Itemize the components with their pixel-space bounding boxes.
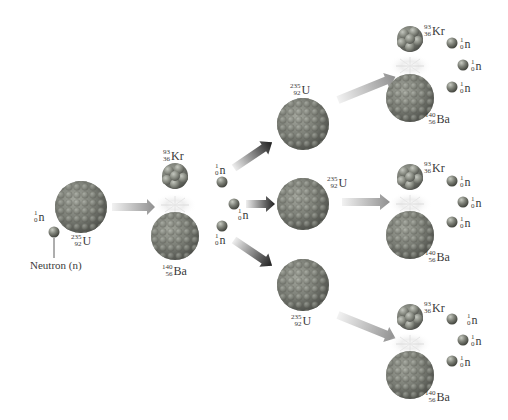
middle-ba-label: 14056Ba [425, 250, 450, 264]
first-kr-label: 9336Kr [163, 149, 184, 163]
upper-neutron-2-label: 10n [471, 59, 482, 73]
atomic-number: 92 [294, 90, 301, 97]
upper-neutron-1 [447, 38, 458, 49]
lower-neutron-1-label: 10n [467, 313, 478, 327]
atomic-number: 92 [295, 321, 302, 328]
arrow-to-middle-uranium [246, 196, 275, 212]
middle-neutron-3-label: 10n [460, 216, 471, 230]
arrow-to-lower-uranium [230, 233, 277, 272]
lower-neutron-1 [447, 314, 458, 325]
lower-ba-label: 14056Ba [425, 390, 450, 404]
element-symbol: n [465, 355, 471, 369]
initial-uranium-label: 23592U [71, 234, 91, 248]
second-uranium-lower-label: 23592U [291, 314, 311, 328]
atomic-number: 0 [467, 320, 471, 327]
arrow-middle-fission [342, 194, 390, 210]
middle-neutron-1-label: 10n [460, 175, 471, 189]
middle-neutron-3 [447, 217, 458, 228]
atomic-number: 56 [166, 271, 173, 278]
middle-neutron-1 [447, 176, 458, 187]
element-symbol: Kr [432, 161, 445, 175]
upper-neutron-3 [447, 82, 458, 93]
initial-neutron [49, 227, 60, 238]
upper-neutron-3-label: 10n [460, 81, 471, 95]
arrow-lower-fission [335, 308, 398, 346]
lower-kr-nucleus [397, 304, 423, 330]
element-symbol: Kr [171, 149, 184, 163]
element-symbol: Ba [174, 264, 187, 278]
atomic-number: 0 [460, 182, 464, 189]
element-symbol: n [476, 334, 482, 348]
atomic-number: 36 [424, 168, 431, 175]
initial-uranium-nucleus [55, 181, 107, 233]
lower-neutron-2-label: 10n [471, 334, 482, 348]
element-symbol: U [339, 176, 348, 190]
atomic-number: 36 [163, 156, 170, 163]
element-symbol: n [472, 313, 478, 327]
atomic-number: 56 [429, 119, 436, 126]
element-symbol: n [243, 208, 249, 222]
first-neutron-3 [217, 221, 228, 232]
element-symbol: Kr [432, 24, 445, 38]
upper-neutron-1-label: 10n [460, 37, 471, 51]
atomic-number: 0 [460, 88, 464, 95]
element-symbol: n [220, 163, 226, 177]
upper-kr-nucleus [397, 26, 423, 52]
element-symbol: n [476, 59, 482, 73]
element-symbol: Ba [437, 112, 450, 126]
atomic-number: 0 [215, 170, 219, 177]
atomic-number: 0 [215, 240, 219, 247]
atomic-number: 36 [424, 308, 431, 315]
atomic-number: 0 [471, 341, 475, 348]
element-symbol: n [220, 233, 226, 247]
atomic-number: 56 [429, 257, 436, 264]
lower-neutron-3-label: 10n [460, 355, 471, 369]
atomic-number: 56 [429, 397, 436, 404]
fission-diagram [0, 0, 508, 420]
element-symbol: Kr [432, 301, 445, 315]
element-symbol: n [465, 81, 471, 95]
atomic-number: 36 [424, 31, 431, 38]
atomic-number: 92 [331, 183, 338, 190]
first-ba-nucleus [151, 212, 199, 260]
arrow-to-upper-uranium [230, 136, 277, 175]
second-uranium-upper-label: 23592U [290, 83, 310, 97]
element-symbol: n [465, 37, 471, 51]
second-uranium-upper [277, 98, 329, 150]
atomic-number: 0 [471, 66, 475, 73]
element-symbol: n [39, 210, 45, 224]
atomic-number: 0 [460, 362, 464, 369]
second-uranium-lower [277, 259, 329, 311]
neutron-caption: Neutron (n) [30, 259, 82, 271]
upper-neutron-2 [458, 60, 469, 71]
element-symbol: U [83, 234, 92, 248]
second-uranium-middle-label: 23592U [327, 176, 347, 190]
initial-neutron-label: 10n [34, 210, 45, 224]
first-neutron-2-label: 10n [238, 208, 249, 222]
middle-neutron-2-label: 10n [471, 196, 482, 210]
lower-kr-label: 9336Kr [424, 301, 445, 315]
middle-kr-label: 9336Kr [424, 161, 445, 175]
element-symbol: n [476, 196, 482, 210]
middle-neutron-2 [458, 197, 469, 208]
upper-ba-label: 14056Ba [425, 112, 450, 126]
element-symbol: n [465, 216, 471, 230]
element-symbol: Ba [437, 390, 450, 404]
element-symbol: U [303, 314, 312, 328]
atomic-number: 0 [238, 215, 242, 222]
second-uranium-middle [277, 178, 329, 230]
element-symbol: n [465, 175, 471, 189]
first-kr-nucleus [162, 163, 188, 189]
lower-neutron-3 [447, 356, 458, 367]
upper-kr-label: 9336Kr [424, 24, 445, 38]
middle-kr-nucleus [397, 164, 423, 190]
atomic-number: 0 [460, 223, 464, 230]
lower-neutron-2 [458, 335, 469, 346]
atomic-number: 0 [460, 44, 464, 51]
arrow-initial-to-fission [112, 199, 155, 215]
first-neutron-1 [217, 177, 228, 188]
atomic-number: 0 [471, 203, 475, 210]
first-neutron-3-label: 10n [215, 233, 226, 247]
atomic-number: 92 [75, 241, 82, 248]
element-symbol: U [302, 83, 311, 97]
